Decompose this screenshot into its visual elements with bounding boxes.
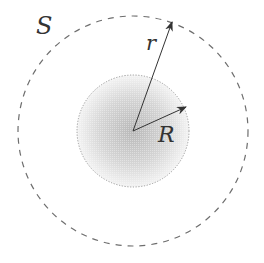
diagram-canvas: S r R [0,0,264,263]
radius-label-R: R [158,124,175,146]
vector-label-r: r [146,33,156,54]
surface-label-S: S [36,14,52,38]
